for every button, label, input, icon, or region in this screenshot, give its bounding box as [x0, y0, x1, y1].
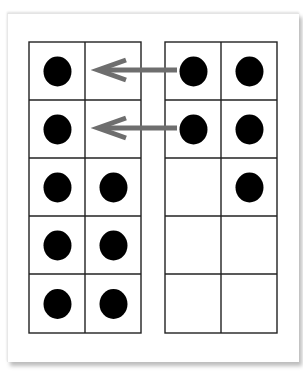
counter-dot-icon — [180, 115, 208, 145]
counter-dot-icon — [180, 57, 208, 87]
counter-dot-icon — [44, 115, 72, 145]
counter-dot-icon — [44, 289, 72, 319]
counter-dot-icon — [236, 57, 264, 87]
counter-dot-icon — [44, 231, 72, 261]
counter-dot-icon — [236, 115, 264, 145]
right-ten-frame — [165, 42, 277, 333]
counter-dot-icon — [100, 173, 128, 203]
counter-dot-icon — [100, 289, 128, 319]
counter-dot-icon — [100, 231, 128, 261]
counter-dot-icon — [44, 173, 72, 203]
left-ten-frame — [29, 42, 141, 333]
counter-dot-icon — [236, 173, 264, 203]
counter-dot-icon — [44, 57, 72, 87]
ten-frames-diagram — [0, 0, 303, 372]
